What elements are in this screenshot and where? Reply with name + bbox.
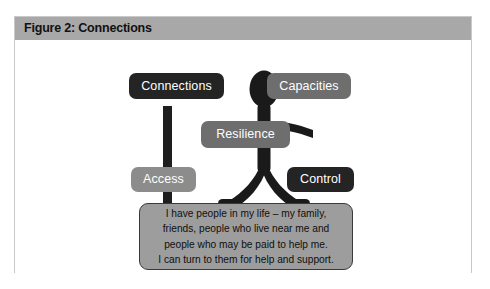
quote-line: I have people in my life – my family, [166,206,327,222]
label-capacities[interactable]: Capacities [267,73,351,99]
figure-frame: Figure 2: Connections Connections [14,16,472,273]
figure-caption-text: Figure 2: Connections [15,22,152,35]
quote-line: I can turn to them for help and support. [158,252,334,268]
label-control[interactable]: Control [287,167,354,192]
diagram-canvas: Connections Capacities Resilience Access… [15,40,471,274]
label-access-text: Access [143,173,184,186]
quote-callout-box: I have people in my life – my family, fr… [139,203,353,270]
label-resilience[interactable]: Resilience [201,121,290,148]
label-connections-text: Connections [141,80,212,93]
label-resilience-text: Resilience [216,128,275,141]
quote-line: friends, people who live near me and [163,221,330,237]
label-connections[interactable]: Connections [129,73,224,99]
label-access[interactable]: Access [131,167,196,192]
label-control-text: Control [300,173,341,186]
label-capacities-text: Capacities [279,80,338,93]
quote-line: people who may be paid to help me. [164,237,328,253]
figure-caption-bar: Figure 2: Connections [15,17,471,40]
